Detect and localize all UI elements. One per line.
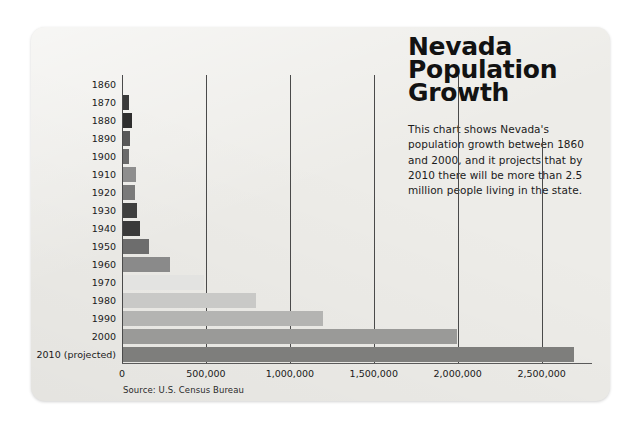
y-axis-label-1940: 1940 bbox=[31, 221, 116, 236]
x-tick-label-1500000: 1,500,000 bbox=[350, 368, 398, 379]
bar-1980 bbox=[122, 293, 256, 308]
chart-row: 1890 bbox=[122, 131, 592, 146]
y-axis-label-2000: 2000 bbox=[31, 329, 116, 344]
chart-row: 1950 bbox=[122, 239, 592, 254]
y-axis-label-1930: 1930 bbox=[31, 203, 116, 218]
x-tick-label-500000: 500,000 bbox=[186, 368, 225, 379]
chart-row: 2010 (projected) bbox=[122, 347, 592, 362]
x-tick-label-1000000: 1,000,000 bbox=[266, 368, 314, 379]
chart-row: 1920 bbox=[122, 185, 592, 200]
y-axis-label-1950: 1950 bbox=[31, 239, 116, 254]
chart-row: 1860 bbox=[122, 77, 592, 92]
x-axis-line bbox=[122, 363, 592, 364]
x-tick-label-0: 0 bbox=[119, 368, 125, 379]
chart-row: 1900 bbox=[122, 149, 592, 164]
bar-1890 bbox=[122, 131, 130, 146]
chart-row: 1940 bbox=[122, 221, 592, 236]
chart-card: Nevada Population Growth This chart show… bbox=[31, 27, 610, 401]
y-axis-label-1920: 1920 bbox=[31, 185, 116, 200]
y-axis-label-1900: 1900 bbox=[31, 149, 116, 164]
y-axis-label-1880: 1880 bbox=[31, 113, 116, 128]
y-axis-label-1980: 1980 bbox=[31, 293, 116, 308]
bar-1970 bbox=[122, 275, 204, 290]
bar-1880 bbox=[122, 113, 132, 128]
y-axis-label-2010: 2010 (projected) bbox=[31, 347, 116, 362]
chart-row: 1960 bbox=[122, 257, 592, 272]
x-tick-label-2500000: 2,500,000 bbox=[517, 368, 565, 379]
y-axis-label-1870: 1870 bbox=[31, 95, 116, 110]
y-axis-label-1860: 1860 bbox=[31, 77, 116, 92]
chart-row: 1930 bbox=[122, 203, 592, 218]
y-axis-line bbox=[122, 75, 123, 364]
bar-1940 bbox=[122, 221, 140, 236]
y-axis-label-1910: 1910 bbox=[31, 167, 116, 182]
y-axis-label-1890: 1890 bbox=[31, 131, 116, 146]
y-axis-label-1990: 1990 bbox=[31, 311, 116, 326]
chart-row: 1870 bbox=[122, 95, 592, 110]
chart-row: 2000 bbox=[122, 329, 592, 344]
bar-2010 bbox=[122, 347, 574, 362]
chart-row: 1880 bbox=[122, 113, 592, 128]
y-axis-label-1970: 1970 bbox=[31, 275, 116, 290]
chart-row: 1980 bbox=[122, 293, 592, 308]
bar-1910 bbox=[122, 167, 136, 182]
bar-1920 bbox=[122, 185, 135, 200]
bar-1870 bbox=[122, 95, 129, 110]
plot-area: 1860187018801890190019101920193019401950… bbox=[122, 75, 592, 363]
bar-2000 bbox=[122, 329, 457, 344]
chart-row: 1910 bbox=[122, 167, 592, 182]
bar-1930 bbox=[122, 203, 137, 218]
bar-1990 bbox=[122, 311, 323, 326]
x-tick-label-2000000: 2,000,000 bbox=[434, 368, 482, 379]
bar-1900 bbox=[122, 149, 129, 164]
chart-row: 1970 bbox=[122, 275, 592, 290]
bar-1960 bbox=[122, 257, 170, 272]
chart-row: 1990 bbox=[122, 311, 592, 326]
source-note: Source: U.S. Census Bureau bbox=[123, 385, 244, 395]
screenshot-root: Nevada Population Growth This chart show… bbox=[0, 0, 641, 429]
bar-1950 bbox=[122, 239, 149, 254]
y-axis-label-1960: 1960 bbox=[31, 257, 116, 272]
